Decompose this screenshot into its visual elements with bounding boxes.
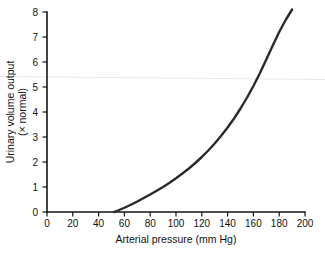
y-axis-tick-labels: 8 7 6 5 4 3 2 1 0 <box>32 7 38 218</box>
renal-output-curve <box>114 10 292 213</box>
x-tick-label: 180 <box>271 218 288 229</box>
x-axis-tick-labels: 0 20 40 60 80 100 120 140 160 180 200 <box>44 218 314 229</box>
y-tick-label: 7 <box>32 32 38 43</box>
scan-artifact-line <box>0 77 325 80</box>
x-tick-label: 160 <box>245 218 262 229</box>
y-tick-label: 5 <box>32 82 38 93</box>
y-tick-label: 0 <box>32 207 38 218</box>
chart-figure: 8 7 6 5 4 3 2 1 0 0 20 40 <box>0 0 325 255</box>
y-tick-label: 4 <box>32 107 38 118</box>
x-tick-label: 40 <box>93 218 105 229</box>
y-tick-label: 2 <box>32 157 38 168</box>
x-tick-label: 0 <box>44 218 50 229</box>
x-tick-label: 20 <box>67 218 79 229</box>
renal-output-curve-chart: 8 7 6 5 4 3 2 1 0 0 20 40 <box>0 0 325 255</box>
x-tick-label: 200 <box>297 218 314 229</box>
x-tick-label: 80 <box>145 218 157 229</box>
y-axis-title-line2: (× normal) <box>16 88 28 136</box>
x-axis-title: Arterial pressure (mm Hg) <box>116 233 237 245</box>
y-tick-label: 3 <box>32 132 38 143</box>
x-tick-label: 120 <box>193 218 210 229</box>
y-tick-label: 8 <box>32 7 38 18</box>
y-tick-label: 1 <box>32 182 38 193</box>
y-tick-label: 6 <box>32 57 38 68</box>
x-tick-label: 60 <box>119 218 131 229</box>
x-tick-label: 100 <box>168 218 185 229</box>
axes <box>47 12 305 212</box>
y-axis-title-line1: Urinary volume output <box>4 61 16 164</box>
x-tick-label: 140 <box>219 218 236 229</box>
